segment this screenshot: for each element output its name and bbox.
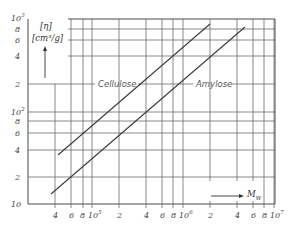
plot-frame bbox=[28, 19, 275, 204]
svg-text:2: 2 bbox=[116, 211, 122, 220]
y-tick-labels: 103 8 6 4 2 102 8 6 4 2 10 bbox=[11, 12, 25, 209]
amylose-label: Amylose bbox=[195, 79, 232, 89]
svg-text:8: 8 bbox=[15, 117, 20, 126]
svg-text:8: 8 bbox=[262, 211, 267, 220]
svg-text:8: 8 bbox=[80, 211, 85, 220]
y-axis-title: [η] [cm³/g] bbox=[32, 21, 64, 78]
horizontal-gridlines bbox=[28, 29, 275, 177]
vertical-gridlines bbox=[55, 19, 274, 208]
svg-text:[η]: [η] bbox=[40, 21, 52, 31]
svg-text:103: 103 bbox=[11, 12, 25, 23]
svg-text:6: 6 bbox=[160, 211, 165, 220]
svg-text:MW: MW bbox=[246, 189, 263, 201]
svg-text:[cm³/g]: [cm³/g] bbox=[32, 33, 64, 43]
chart: Cellulose Amylose [η] [cm³/g] MW 103 8 6… bbox=[0, 0, 292, 230]
svg-text:6: 6 bbox=[69, 211, 74, 220]
svg-text:6: 6 bbox=[15, 36, 20, 45]
svg-text:10: 10 bbox=[11, 200, 21, 209]
svg-text:106: 106 bbox=[179, 209, 193, 220]
cellulose-label: Cellulose bbox=[98, 79, 137, 89]
svg-text:107: 107 bbox=[270, 209, 284, 220]
svg-text:4: 4 bbox=[14, 146, 20, 155]
svg-text:6: 6 bbox=[15, 129, 20, 138]
svg-text:4: 4 bbox=[143, 211, 149, 220]
x-axis-title: MW bbox=[211, 189, 263, 201]
svg-text:6: 6 bbox=[251, 211, 256, 220]
x-tick-labels: 4 6 8 105 2 4 6 8 106 2 4 6 8 107 bbox=[52, 209, 284, 220]
svg-text:8: 8 bbox=[171, 211, 176, 220]
svg-text:2: 2 bbox=[14, 173, 20, 182]
svg-text:4: 4 bbox=[52, 211, 58, 220]
amylose-line bbox=[51, 27, 245, 194]
cellulose-line bbox=[58, 24, 210, 155]
svg-text:8: 8 bbox=[15, 25, 20, 34]
svg-text:2: 2 bbox=[207, 211, 213, 220]
svg-text:105: 105 bbox=[88, 209, 102, 220]
svg-text:4: 4 bbox=[234, 211, 240, 220]
svg-text:4: 4 bbox=[14, 52, 20, 61]
svg-text:2: 2 bbox=[14, 80, 20, 89]
svg-text:102: 102 bbox=[11, 106, 25, 117]
